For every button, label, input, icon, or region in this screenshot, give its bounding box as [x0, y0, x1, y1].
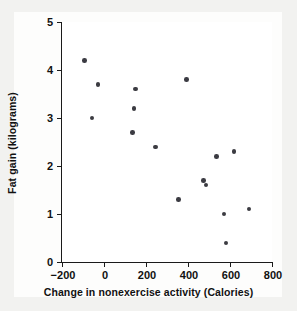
data-point	[204, 183, 209, 188]
x-axis-tick-label: 600	[222, 269, 240, 281]
x-axis-tick-label: −200	[51, 269, 76, 281]
x-axis-tick-label: 800	[264, 269, 282, 281]
x-axis-tick: 400	[188, 262, 189, 267]
y-axis-tick: 4	[57, 70, 62, 71]
data-point	[222, 212, 227, 217]
x-axis-tick: 600	[230, 262, 231, 267]
y-axis-tick: 3	[57, 118, 62, 119]
y-axis-tick: 2	[57, 166, 62, 167]
y-axis-tick-label: 5	[47, 15, 53, 30]
plot-area: 012345−2000200400600800	[61, 22, 272, 263]
y-axis-tick-label: 3	[47, 111, 53, 126]
data-point	[153, 145, 158, 150]
data-point	[214, 154, 219, 159]
data-point	[130, 130, 135, 135]
x-axis-tick-label: 0	[102, 269, 108, 281]
data-point	[184, 77, 189, 82]
data-point	[224, 241, 229, 246]
y-axis-label: Fat gain (kilograms)	[6, 92, 18, 194]
data-point	[132, 106, 137, 111]
x-axis-tick-label: 200	[138, 269, 156, 281]
data-point	[96, 82, 101, 87]
x-axis-tick: −200	[62, 262, 63, 267]
y-axis-tick-label: 0	[47, 255, 53, 270]
data-point	[232, 149, 237, 154]
y-axis-tick-label: 1	[47, 207, 53, 222]
data-point	[133, 87, 138, 92]
y-axis-tick: 5	[57, 22, 62, 23]
x-axis-tick: 800	[272, 262, 273, 267]
x-axis-tick: 200	[146, 262, 147, 267]
y-axis-tick-label: 2	[47, 159, 53, 174]
data-point	[176, 197, 181, 202]
data-point	[247, 207, 252, 212]
scatter-plot-figure: 012345−2000200400600800 Fat gain (kilogr…	[0, 0, 297, 311]
y-axis-tick-label: 4	[47, 63, 53, 78]
data-point	[201, 178, 206, 183]
x-axis-label: Change in nonexercise activity (Calories…	[0, 286, 297, 298]
x-axis-tick: 0	[104, 262, 105, 267]
data-point	[90, 116, 95, 121]
x-axis-tick-label: 400	[180, 269, 198, 281]
y-axis-tick: 1	[57, 214, 62, 215]
data-point	[82, 58, 87, 63]
